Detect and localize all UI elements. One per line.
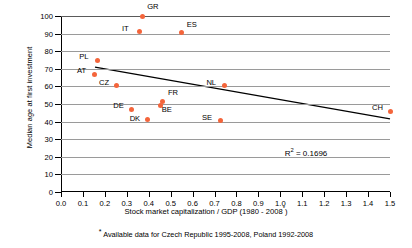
gridline [61,69,390,70]
y-axis-tick [55,16,61,17]
y-axis-tick-label: 60 [45,82,53,91]
x-axis-title-main: Stock market capitalization / GDP (1980 … [124,207,282,216]
x-axis-tick [105,192,106,197]
data-point-label: GR [147,2,158,11]
data-point-label: AT [77,66,86,75]
x-axis-tick [324,192,325,197]
x-axis-tick [83,192,84,197]
x-axis-tick [302,192,303,197]
r-squared-value: = 0.1696 [294,149,328,158]
data-point-label: IT [122,24,129,33]
y-axis-tick [55,51,61,52]
x-axis-tick [280,192,281,197]
x-axis-tick [368,192,369,197]
gridline [61,104,390,105]
y-axis-tick [55,122,61,123]
y-axis-tick [55,34,61,35]
data-point-label: SE [202,113,212,122]
r-squared-annotation: R2 = 0.1696 [285,147,328,158]
y-axis-tick-label: 100 [40,12,53,21]
y-axis-tick-label: 90 [45,29,53,38]
data-point-label: NL [206,78,216,87]
gridline [61,122,390,123]
x-axis-tick [258,192,259,197]
y-axis-tick [55,157,61,158]
data-point[interactable] [218,118,223,123]
x-axis-tick [346,192,347,197]
trendline [95,67,390,119]
gridline [61,34,390,35]
data-point-label: DE [113,101,124,110]
plot-area: 01020304050607080901000.00.10.20.30.40.5… [61,16,390,192]
gridline [61,139,390,140]
data-point-label: CZ [99,78,109,87]
y-axis-tick [55,139,61,140]
data-point-label: ES [187,20,197,29]
x-axis-tick [127,192,128,197]
gridline [61,16,390,17]
x-axis-tick [215,192,216,197]
data-point[interactable] [140,14,145,19]
data-point-label: PL [79,52,88,61]
y-axis-tick-label: 0 [49,188,53,197]
y-axis-tick-label: 30 [45,135,53,144]
y-axis-tick [55,69,61,70]
x-axis-tick [61,192,62,197]
scatter-chart: Median age at first investment 010203040… [0,0,412,248]
data-point-label: CH [372,103,383,112]
x-axis-title-end: ) [285,207,288,216]
data-point-label: DK [130,114,141,123]
chart-footnote: * Available data for Czech Republic 1995… [0,228,412,239]
data-point[interactable] [95,58,100,63]
y-axis-tick [55,104,61,105]
x-axis-tick [390,192,391,197]
x-axis-tick [171,192,172,197]
data-point[interactable] [222,83,227,88]
y-axis-tick-label: 20 [45,152,53,161]
gridline [61,174,390,175]
data-point-label: FR [168,88,178,97]
y-axis-tick-label: 10 [45,170,53,179]
gridline [61,51,390,52]
y-axis-tick-label: 40 [45,117,53,126]
y-axis-title: Median age at first investment [25,8,34,188]
gridline [61,157,390,158]
data-point-label: BE [162,105,172,114]
y-axis-tick-label: 80 [45,47,53,56]
data-point[interactable] [388,109,393,114]
x-axis-tick [149,192,150,197]
x-axis-title: Stock market capitalization / GDP (1980 … [0,205,412,216]
footnote-text: Available data for Czech Republic 1995-2… [102,230,314,239]
y-axis-tick-label: 70 [45,64,53,73]
x-axis-tick [236,192,237,197]
y-axis-tick [55,174,61,175]
y-axis-tick [55,86,61,87]
data-point[interactable] [129,107,134,112]
y-axis-tick-label: 50 [45,100,53,109]
x-axis-tick [193,192,194,197]
